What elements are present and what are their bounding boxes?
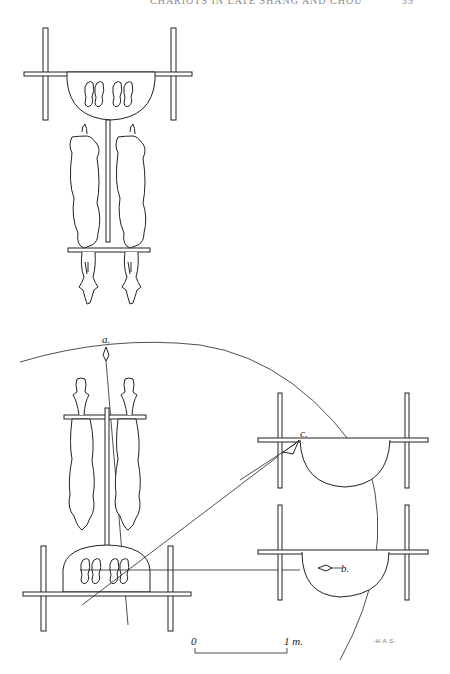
horse-bottom-left [69, 378, 94, 530]
artist-signature: -H.A.S- [373, 638, 396, 644]
horse-top-left [70, 124, 100, 304]
right-upper-chariot [240, 393, 428, 488]
label-c: c. [300, 427, 308, 439]
label-a: a. [102, 333, 110, 345]
right-lower-chariot [258, 505, 428, 600]
label-b: b. [341, 562, 349, 574]
horse-top-right [116, 124, 146, 304]
horse-bottom-right [115, 378, 140, 530]
top-chariot [24, 28, 192, 304]
chariot-burial-diagram: a. c. b. 0 1 m. -H.A.S- [0, 0, 450, 674]
scale-end: 1 m. [284, 635, 303, 647]
scale-start: 0 [191, 635, 197, 647]
scale-bar: 0 1 m. [191, 635, 303, 653]
bottom-chariot [23, 347, 191, 631]
